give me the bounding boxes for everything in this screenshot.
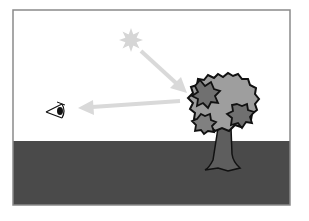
sun-icon bbox=[119, 28, 143, 52]
diagram-scene bbox=[0, 0, 309, 221]
ground bbox=[13, 141, 290, 205]
